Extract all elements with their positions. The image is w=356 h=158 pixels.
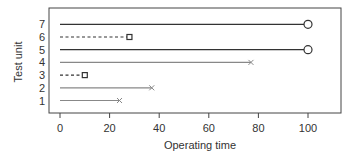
x-tick-label: 20	[103, 122, 115, 134]
x-tick-label: 40	[153, 122, 165, 134]
x-tick-label: 0	[57, 122, 63, 134]
x-tick-label: 60	[203, 122, 215, 134]
unit-2-bar	[60, 85, 154, 90]
unit-1-bar	[60, 98, 122, 103]
x-axis-label: Operating time	[164, 139, 236, 151]
unit-7-bar	[60, 20, 312, 28]
x-axis: 020406080100	[57, 113, 317, 134]
y-tick-label: 4	[39, 56, 45, 68]
y-tick-label: 3	[39, 69, 45, 81]
y-axis-label: Test unit	[12, 42, 24, 83]
unit-6-bar	[60, 35, 132, 40]
circle-marker-icon	[304, 46, 312, 54]
y-tick-label: 7	[39, 18, 45, 30]
y-axis: 1234567	[39, 18, 45, 106]
unit-4-bar	[60, 60, 253, 65]
y-tick-label: 1	[39, 95, 45, 107]
x-tick-label: 80	[252, 122, 264, 134]
circle-marker-icon	[304, 20, 312, 28]
event-plot: 020406080100 1234567 Operating time Test…	[0, 0, 356, 158]
unit-3-bar	[60, 73, 87, 78]
y-tick-label: 2	[39, 82, 45, 94]
series-layer	[60, 20, 312, 103]
x-tick-label: 100	[299, 122, 317, 134]
unit-5-bar	[60, 46, 312, 54]
square-marker-icon	[82, 73, 87, 78]
y-tick-label: 5	[39, 44, 45, 56]
y-tick-label: 6	[39, 31, 45, 43]
square-marker-icon	[127, 35, 132, 40]
